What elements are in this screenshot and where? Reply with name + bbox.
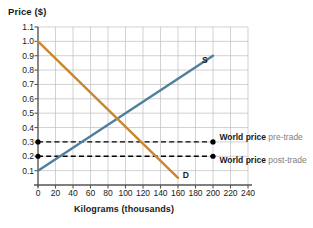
x-tick-label: 100: [118, 188, 132, 198]
x-tick-label: 180: [188, 188, 202, 198]
gridlines: [38, 27, 248, 185]
x-tick-label: 0: [36, 188, 41, 198]
marker-dot-world-price-pre-trade: [35, 139, 40, 144]
marker-dot-world-price-pre-trade: [210, 139, 215, 144]
x-tick-label: 220: [223, 188, 237, 198]
plot-area: [38, 27, 248, 185]
x-tick-label: 140: [153, 188, 167, 198]
x-tick-label: 200: [206, 188, 220, 198]
x-tick-label: 20: [51, 188, 60, 198]
x-tick-label: 60: [86, 188, 95, 198]
marker-dot-world-price-post-trade: [35, 154, 40, 159]
x-tick-label: 240: [241, 188, 255, 198]
x-tick-label: 160: [171, 188, 185, 198]
supply-demand-chart: Price ($) Kilograms (thousands) 0.10.20.…: [0, 0, 313, 228]
x-tick-label: 120: [136, 188, 150, 198]
world-price-pre-trade-label-soft: pre-trade: [266, 132, 303, 142]
x-tick-label: 40: [68, 188, 77, 198]
marker-dot-world-price-post-trade: [210, 154, 215, 159]
world-price-pre-trade-label: World price pre-trade: [219, 132, 302, 142]
world-price-post-trade-label-strong: World price: [219, 155, 266, 165]
world-price-pre-trade-label-strong: World price: [219, 132, 266, 142]
plot-svg: [38, 27, 248, 185]
x-tick-label: 80: [103, 188, 112, 198]
world-price-post-trade-label-soft: post-trade: [266, 155, 307, 165]
world-price-post-trade-label: World price post-trade: [219, 155, 306, 165]
curve-label-S: S: [202, 55, 208, 65]
curve-label-D: D: [183, 170, 189, 180]
